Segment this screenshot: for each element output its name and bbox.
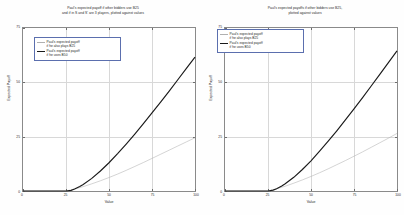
- chart-title-right: Paul's expected payoffs if other bidders…: [210, 6, 400, 15]
- series-line-b25: [23, 138, 195, 191]
- chart-title-right-line2: plotted against values: [210, 11, 400, 16]
- series-line-b50: [225, 51, 397, 191]
- legend-line-swatch-icon: [220, 34, 228, 35]
- legend-entry-continuation: if he uses B50: [220, 45, 301, 50]
- x-tick-label: 50: [107, 193, 111, 197]
- x-tick-label: 25: [64, 193, 68, 197]
- y-tick-label: 50: [218, 80, 222, 84]
- y-tick-label: 0: [220, 190, 222, 194]
- y-axis-label-left: Expected Payoff: [7, 58, 11, 118]
- x-axis-label-left: Value: [22, 200, 196, 204]
- series-line-b50: [23, 57, 195, 191]
- chart-panel-right: Paul's expected payoffs if other bidders…: [202, 0, 404, 215]
- chart-panel-left: Paul's expected payoff if other bidders …: [0, 0, 202, 215]
- chart-title-left: Paul's expected payoff if other bidders …: [8, 6, 198, 15]
- y-tick-label: 75: [16, 25, 20, 29]
- legend-left[interactable]: Paul's expected payoff if he also plays …: [34, 37, 121, 61]
- x-axis-label-right: Value: [224, 200, 398, 204]
- legend-line-swatch-icon: [220, 43, 228, 44]
- axis-tick-x: [397, 189, 398, 191]
- legend-line-swatch-icon: [37, 42, 45, 43]
- x-tick-label: 0: [21, 193, 23, 197]
- legend-line-swatch-icon: [37, 51, 45, 52]
- chart-title-left-line2: and if in S and S' are 3 players, plotte…: [8, 11, 198, 16]
- x-tick-label: 25: [266, 193, 270, 197]
- legend-right[interactable]: Paul's expected payoff if he also plays …: [217, 29, 304, 53]
- y-tick-label: 50: [16, 80, 20, 84]
- chart-title-right-line1: Paul's expected payoffs if other bidders…: [268, 6, 342, 10]
- y-tick-label: 25: [218, 135, 222, 139]
- chart-title-left-line1: Paul's expected payoff if other bidders …: [67, 6, 139, 10]
- axis-tick-x: [195, 189, 196, 191]
- y-tick-label: 0: [18, 190, 20, 194]
- x-tick-label: 100: [395, 193, 401, 197]
- figure-canvas: Paul's expected payoff if other bidders …: [0, 0, 404, 215]
- legend-entry-continuation: if he uses B50: [37, 53, 118, 58]
- x-tick-label: 50: [309, 193, 313, 197]
- x-tick-label: 75: [151, 193, 155, 197]
- series-line-b25: [225, 133, 397, 191]
- x-tick-label: 75: [353, 193, 357, 197]
- y-tick-label: 25: [16, 135, 20, 139]
- y-axis-label-right: Expected Payoff: [209, 58, 213, 118]
- x-tick-label: 100: [193, 193, 199, 197]
- x-tick-label: 0: [223, 193, 225, 197]
- legend-label: if he uses B50: [230, 45, 251, 50]
- legend-label: if he uses B50: [47, 53, 68, 58]
